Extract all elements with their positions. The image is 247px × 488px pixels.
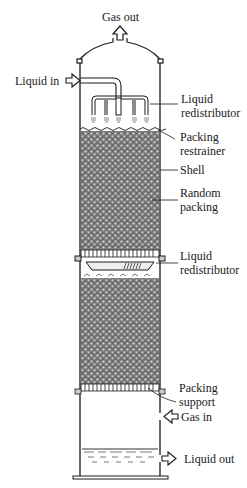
- label-shell: Shell: [180, 163, 205, 177]
- base-plate: [73, 476, 168, 479]
- label-random-packing-1: Random: [180, 186, 221, 200]
- spray-nozzles: [91, 118, 149, 122]
- label-packing-support-1: Packing: [179, 381, 218, 395]
- gas-out-arrow: [113, 26, 127, 40]
- label-gas-in: Gas in: [181, 410, 212, 424]
- liquid-out-arrow: [162, 452, 176, 465]
- label-liquid-redistributor-mid-2: redistributor: [180, 263, 239, 277]
- liquid-in-pipe: [80, 78, 121, 98]
- label-liquid-redistributor-top-1: Liquid: [181, 92, 213, 106]
- label-packing-support-2: support: [179, 395, 215, 409]
- liquid-sump: [82, 449, 158, 462]
- label-liquid-redistributor-mid-1: Liquid: [180, 249, 212, 263]
- upper-packed-bed: [81, 131, 159, 257]
- packing-restrainer: [80, 128, 166, 131]
- top-head: [77, 38, 163, 63]
- label-liquid-out: Liquid out: [184, 452, 234, 466]
- liquid-in-arrow: [66, 74, 80, 87]
- lower-packed-bed: [81, 278, 159, 385]
- label-liquid-in: Liquid in: [15, 74, 59, 88]
- label-random-packing-2: packing: [180, 200, 218, 214]
- gas-in-arrow: [164, 410, 178, 423]
- packing-support: [75, 384, 165, 394]
- label-packing-restrainer-2: restrainer: [180, 144, 225, 158]
- label-liquid-redistributor-top-2: redistributor: [181, 106, 240, 120]
- label-gas-out: Gas out: [102, 10, 139, 24]
- middle-redistributor: [75, 256, 165, 276]
- label-packing-restrainer-1: Packing: [180, 130, 219, 144]
- top-liquid-distributor: [92, 96, 148, 115]
- upper-bed-support-grid: [81, 250, 159, 257]
